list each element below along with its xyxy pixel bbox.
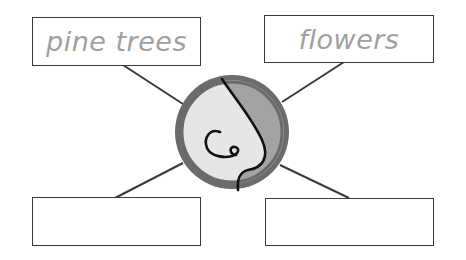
connector-top-left: [123, 65, 183, 104]
box-bottom-left[interactable]: [32, 197, 201, 246]
box-top-left[interactable]: pine trees: [32, 17, 201, 66]
box-top-right[interactable]: flowers: [264, 15, 434, 63]
nose-icon: [175, 70, 300, 200]
connector-bottom-right: [280, 165, 349, 198]
connector-top-right: [282, 62, 344, 102]
box-bottom-right[interactable]: [265, 198, 434, 246]
box-label-flowers: flowers: [299, 24, 400, 55]
box-label-pine-trees: pine trees: [46, 26, 187, 57]
connector-bottom-left: [115, 163, 183, 198]
